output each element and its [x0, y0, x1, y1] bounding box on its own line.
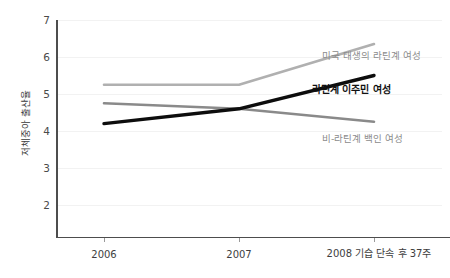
series-label-latina-immigrant: 라틴계 이주민 여성 — [312, 81, 391, 96]
x-tick-mark-2007 — [239, 238, 240, 242]
y-tick-5: 5 — [26, 88, 50, 100]
y-axis-tick-labels: 7 6 5 4 3 2 — [22, 0, 50, 278]
x-tick-label-2007: 2007 — [226, 249, 251, 260]
y-tick-3: 3 — [26, 162, 50, 174]
y-tick-7: 7 — [26, 14, 50, 26]
x-tick-label-2006: 2006 — [91, 249, 116, 260]
y-tick-4: 4 — [26, 125, 50, 137]
y-tick-2: 2 — [26, 199, 50, 211]
series-label-non-latina-white: 비-라틴계 백인 여성 — [322, 131, 403, 145]
x-tick-mark-2006 — [104, 238, 105, 242]
series-label-us-born-latina: 미국 태생의 라틴계 여성 — [322, 48, 421, 62]
x-tick-mark-2008 — [374, 238, 375, 242]
x-tick-label-2008: 2008 기습 단속 후 37주 — [327, 245, 432, 260]
y-tick-6: 6 — [26, 51, 50, 63]
